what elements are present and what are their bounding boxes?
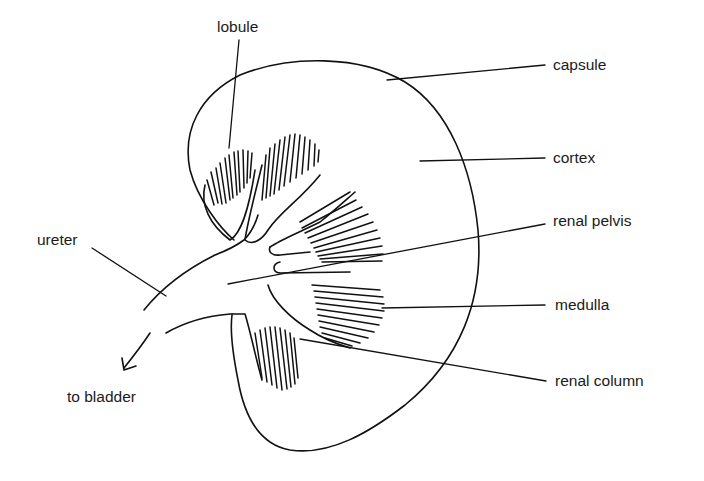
label-to-bladder: to bladder [67,388,136,405]
lobule-3-hatching [300,192,383,262]
lobule-4-outline [268,285,350,348]
arrow-head-icon [122,358,136,370]
leader-medulla [382,305,545,308]
lobule-1-hatching [207,150,252,205]
lobule-2-hatching [262,134,319,200]
label-cortex: cortex [553,149,595,166]
label-ureter: ureter [37,231,78,248]
leader-cortex [420,158,545,161]
lobule-3-base [269,247,310,255]
leader-capsule [387,65,545,80]
to-bladder-arrow [124,333,150,368]
leader-renal-column [300,339,546,381]
label-lobule: lobule [217,18,258,35]
leader-ureter [92,248,166,296]
label-renal-pelvis: renal pelvis [553,212,632,229]
ureter-lower-wall [166,314,232,333]
label-renal-column: renal column [555,372,644,389]
lobule-3-outline [270,192,355,247]
label-capsule: capsule [553,56,606,73]
leader-renal-pelvis [228,224,545,284]
leader-lobule [229,40,239,148]
kidney-diagram: lobule capsule cortex renal pelvis urete… [0,0,704,481]
ureter-upper-wall [144,215,258,310]
label-medulla: medulla [555,296,610,313]
